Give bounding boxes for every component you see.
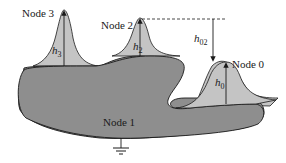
node2-label: Node 2 [101, 19, 133, 31]
node1-label: Node 1 [103, 116, 135, 128]
node3-label: Node 3 [22, 7, 55, 19]
node-diagram: Node 3 Node 2 Node 0 Node 1 h3 h2 h0 h02 [0, 0, 286, 163]
node0-label: Node 0 [232, 58, 265, 70]
h02-label: h02 [194, 32, 208, 47]
ground-icon [113, 148, 129, 154]
